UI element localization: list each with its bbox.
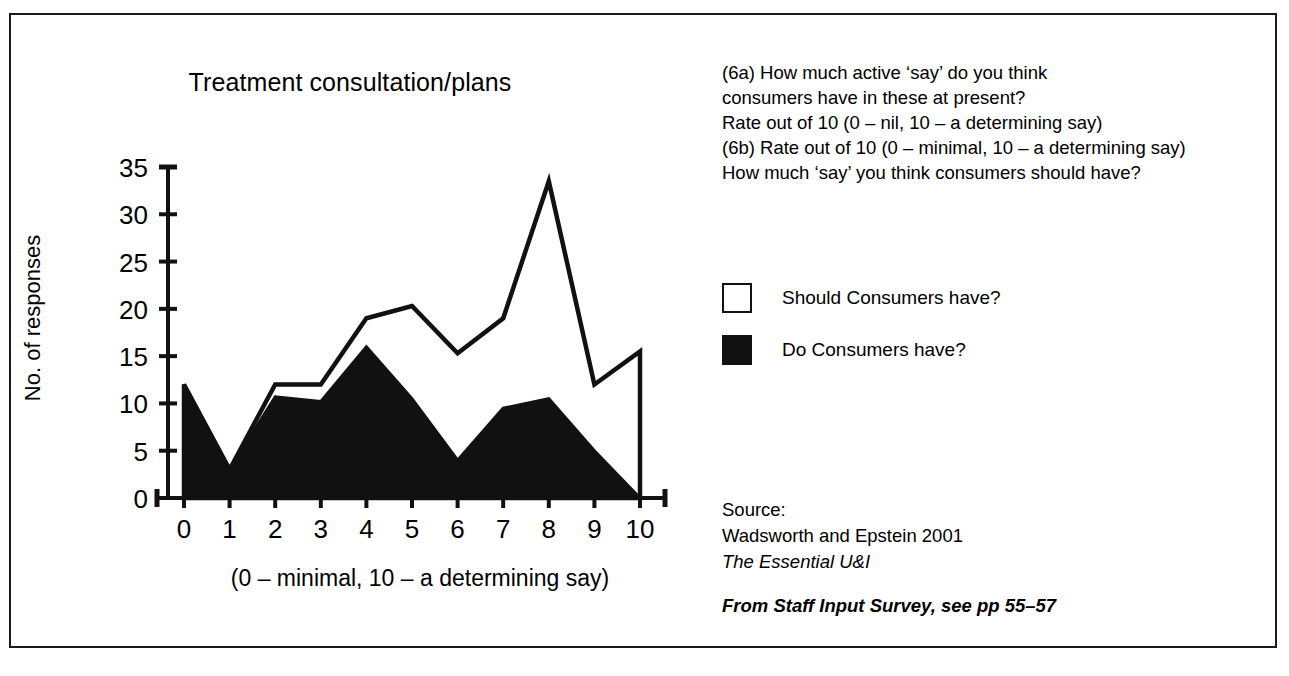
x-axis-tick-label: 7 bbox=[496, 514, 510, 544]
survey-question-block: (6a) How much active ‘say’ do you think … bbox=[722, 60, 1262, 185]
page-root: Treatment consultation/plans No. of resp… bbox=[0, 0, 1289, 676]
x-axis-tick-label: 2 bbox=[268, 514, 282, 544]
source-work-title: The Essential U&I bbox=[722, 549, 1202, 575]
source-citation: Wadsworth and Epstein 2001 bbox=[722, 523, 1202, 549]
legend-swatch-hollow-icon bbox=[722, 283, 752, 313]
y-axis-tick-label: 15 bbox=[119, 342, 148, 372]
question-line: How much ‘say’ you think consumers shoul… bbox=[722, 160, 1262, 185]
y-axis-tick-label: 35 bbox=[119, 153, 148, 183]
y-axis-tick-label: 25 bbox=[119, 248, 148, 278]
chart-series-layer bbox=[184, 181, 640, 498]
x-axis-tick-label: 0 bbox=[177, 514, 191, 544]
question-line: Rate out of 10 (0 – nil, 10 – a determin… bbox=[722, 110, 1262, 135]
x-axis-tick-label: 1 bbox=[222, 514, 236, 544]
chart-figure: Treatment consultation/plans No. of resp… bbox=[0, 0, 700, 676]
y-axis-tick-label: 0 bbox=[134, 484, 148, 514]
legend-item-do-consumers-have: Do Consumers have? bbox=[722, 335, 1142, 365]
legend-item-label: Should Consumers have? bbox=[782, 287, 1001, 309]
x-axis-tick-label: 3 bbox=[314, 514, 328, 544]
source-block: Source: Wadsworth and Epstein 2001 The E… bbox=[722, 497, 1202, 619]
y-axis-tick-label: 5 bbox=[134, 437, 148, 467]
x-axis-tick-labels: 012345678910 bbox=[177, 514, 655, 544]
y-axis-tick-label: 30 bbox=[119, 200, 148, 230]
question-line: consumers have in these at present? bbox=[722, 85, 1262, 110]
annotation-column: (6a) How much active ‘say’ do you think … bbox=[722, 0, 1262, 676]
x-axis-tick-label: 9 bbox=[587, 514, 601, 544]
chart-plot: 05101520253035 012345678910 bbox=[0, 0, 700, 560]
x-axis-tick-label: 4 bbox=[359, 514, 373, 544]
question-line: (6b) Rate out of 10 (0 – minimal, 10 – a… bbox=[722, 135, 1262, 160]
legend-item-label: Do Consumers have? bbox=[782, 339, 966, 361]
source-heading: Source: bbox=[722, 497, 1202, 523]
legend-item-should-consumers-have: Should Consumers have? bbox=[722, 283, 1142, 313]
y-axis-tick-labels: 05101520253035 bbox=[119, 153, 148, 514]
chart-legend: Should Consumers have? Do Consumers have… bbox=[722, 283, 1142, 387]
source-note: From Staff Input Survey, see pp 55–57 bbox=[722, 593, 1202, 619]
x-axis-tick-label: 5 bbox=[405, 514, 419, 544]
x-axis-tick-label: 6 bbox=[450, 514, 464, 544]
x-axis-tick-label: 8 bbox=[542, 514, 556, 544]
y-axis-tick-label: 20 bbox=[119, 295, 148, 325]
question-line: (6a) How much active ‘say’ do you think bbox=[722, 60, 1262, 85]
x-axis-tick-label: 10 bbox=[626, 514, 655, 544]
legend-swatch-filled-icon bbox=[722, 335, 752, 365]
y-axis-tick-label: 10 bbox=[119, 389, 148, 419]
x-axis-label: (0 – minimal, 10 – a determining say) bbox=[100, 565, 740, 592]
